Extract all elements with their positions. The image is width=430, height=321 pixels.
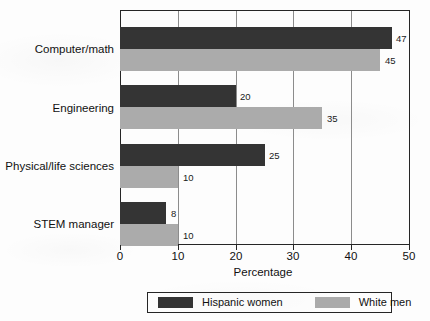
xtick-label-40: 40	[336, 251, 366, 263]
dark-swatch-icon	[158, 297, 193, 308]
xtick-label-30: 30	[278, 251, 308, 263]
bar-white-men-computer-math[interactable]	[120, 49, 380, 71]
bar-hispanic-women-physical-life-sciences[interactable]	[120, 144, 265, 166]
bar-white-men-physical-life-sciences[interactable]	[120, 166, 178, 188]
xtick-label-10: 10	[163, 251, 193, 263]
bar-value-hispanic-women-stem-manager: 8	[171, 209, 176, 219]
legend-item-white-men[interactable]: White men	[305, 293, 412, 312]
light-swatch-icon	[315, 297, 350, 308]
x-axis-title: Percentage	[0, 266, 430, 278]
grouped-bar-chart: Computer/math Engineering Physical/life …	[0, 0, 430, 321]
bar-value-white-men-computer-math: 45	[385, 56, 396, 66]
bar-hispanic-women-stem-manager[interactable]	[120, 202, 166, 224]
chart-legend: Hispanic women White men	[147, 292, 392, 313]
legend-item-hispanic-women[interactable]: Hispanic women	[148, 293, 283, 312]
bar-value-white-men-stem-manager: 10	[183, 231, 194, 241]
xtick-label-0: 0	[105, 251, 135, 263]
xtick-label-20: 20	[221, 251, 251, 263]
bar-value-hispanic-women-physical-life-sciences: 25	[269, 151, 280, 161]
xtick-label-50: 50	[394, 251, 424, 263]
bar-hispanic-women-engineering[interactable]	[120, 85, 236, 107]
bar-white-men-stem-manager[interactable]	[120, 224, 178, 246]
bar-white-men-engineering[interactable]	[120, 107, 322, 129]
bar-value-white-men-physical-life-sciences: 10	[183, 173, 194, 183]
category-label-engineering: Engineering	[53, 103, 114, 115]
bar-hispanic-women-computer-math[interactable]	[120, 27, 392, 49]
bar-value-hispanic-women-engineering: 20	[240, 92, 251, 102]
legend-label-hispanic-women: Hispanic women	[202, 297, 283, 308]
bar-value-white-men-engineering: 35	[327, 114, 338, 124]
category-label-physical-life-sciences: Physical/life sciences	[5, 161, 114, 173]
legend-label-white-men: White men	[359, 297, 412, 308]
category-label-computer-math: Computer/math	[35, 44, 114, 56]
category-label-stem-manager: STEM manager	[33, 219, 114, 231]
bar-value-hispanic-women-computer-math: 47	[396, 34, 407, 44]
